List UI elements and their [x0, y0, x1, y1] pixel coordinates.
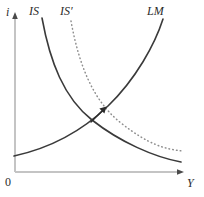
is-lm-diagram: IS IS′ LM i Y 0	[0, 0, 204, 197]
equilibrium-shift-arrow	[91, 107, 107, 123]
is-curve	[42, 18, 181, 162]
horizontal-axis-label: Y	[187, 177, 194, 189]
lm-curve-label: LM	[147, 5, 164, 17]
is-prime-curve-label: IS′	[60, 5, 73, 17]
lm-curve	[14, 19, 163, 156]
diagram-canvas	[0, 0, 204, 197]
vertical-axis-label: i	[6, 6, 9, 18]
vertical-axis-arrowhead	[12, 12, 18, 19]
origin-label: 0	[5, 176, 11, 188]
horizontal-axis-arrowhead	[177, 169, 184, 175]
is-curve-label: IS	[29, 5, 39, 17]
